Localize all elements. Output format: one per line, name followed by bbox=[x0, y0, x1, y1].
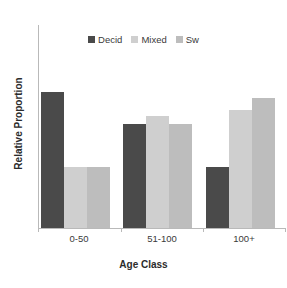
x-tick-label: 100+ bbox=[233, 233, 254, 244]
bar-group bbox=[123, 25, 192, 228]
x-tick-labels: 0-50 51-100 100+ bbox=[38, 233, 286, 249]
bar-mixed-0-50 bbox=[64, 167, 87, 228]
bar-decid-100+ bbox=[206, 167, 229, 228]
bar-chart-figure: Decid Mixed Sw 0-50 51-100 100+ Age Clas… bbox=[0, 0, 287, 288]
y-axis-title: Relative Proportion bbox=[13, 54, 24, 194]
bar-decid-0-50 bbox=[41, 92, 64, 228]
bar-group bbox=[206, 25, 275, 228]
bar-decid-51-100 bbox=[123, 124, 146, 228]
x-axis-tick bbox=[203, 228, 204, 232]
bar-sw-51-100 bbox=[169, 124, 192, 228]
x-axis-tick bbox=[121, 228, 122, 232]
x-axis-line bbox=[38, 228, 286, 229]
bar-sw-100+ bbox=[252, 98, 275, 228]
bar-group bbox=[41, 25, 110, 228]
x-axis-tick bbox=[285, 228, 286, 232]
x-tick-label: 51-100 bbox=[147, 233, 177, 244]
bar-sw-0-50 bbox=[87, 167, 110, 228]
x-axis-title: Age Class bbox=[0, 259, 287, 270]
x-tick-label: 0-50 bbox=[69, 233, 88, 244]
bar-mixed-100+ bbox=[229, 110, 252, 228]
bar-mixed-51-100 bbox=[146, 116, 169, 228]
x-axis-tick bbox=[38, 228, 39, 232]
plot-area bbox=[38, 25, 286, 228]
